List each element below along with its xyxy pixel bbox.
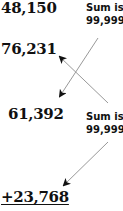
- arrows-diagram: [0, 0, 123, 211]
- arrow-to-23768-icon: [64, 142, 108, 185]
- arrow-to-76231-icon: [60, 57, 108, 103]
